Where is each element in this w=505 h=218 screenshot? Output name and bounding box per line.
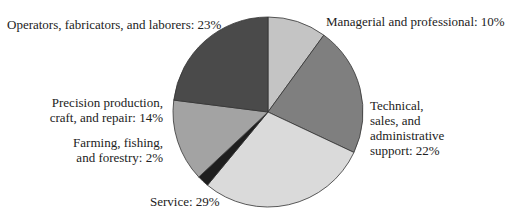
label-technical-line2: sales, and xyxy=(370,113,444,128)
label-precision: Precision production, craft, and repair:… xyxy=(50,95,163,125)
label-farming-line1: Farming, fishing, xyxy=(73,135,163,150)
label-farming-line2: and forestry: 2% xyxy=(73,150,163,165)
label-service: Service: 29% xyxy=(150,194,220,209)
label-farming: Farming, fishing, and forestry: 2% xyxy=(73,135,163,165)
label-precision-line2: craft, and repair: 14% xyxy=(50,110,163,125)
label-technical-line4: support: 22% xyxy=(370,143,444,158)
label-technical: Technical, sales, and administrative sup… xyxy=(370,98,444,158)
label-technical-line1: Technical, xyxy=(370,98,444,113)
label-precision-line1: Precision production, xyxy=(50,95,163,110)
label-managerial: Managerial and professional: 10% xyxy=(326,14,505,29)
label-operators: Operators, fabricators, and laborers: 23… xyxy=(7,17,221,32)
label-technical-line3: administrative xyxy=(370,128,444,143)
